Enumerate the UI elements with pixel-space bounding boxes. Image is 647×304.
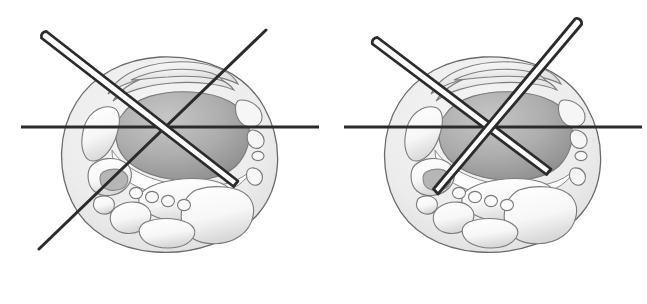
vessel-circle xyxy=(501,199,514,210)
vessel-circle xyxy=(130,187,143,198)
vessel-circle xyxy=(178,199,191,210)
right-panel-illustration xyxy=(323,0,647,304)
vessel-circle xyxy=(146,191,159,202)
vessel-circle xyxy=(469,191,482,202)
left-panel-illustration xyxy=(0,0,324,304)
right-panel xyxy=(323,0,647,304)
figure-root: Axial ankle cross-section: wire / needle… xyxy=(0,0,647,304)
vessel-circle xyxy=(162,195,175,206)
left-panel xyxy=(0,0,324,304)
vessel-circle xyxy=(485,195,498,206)
vessel-circle xyxy=(453,187,466,198)
